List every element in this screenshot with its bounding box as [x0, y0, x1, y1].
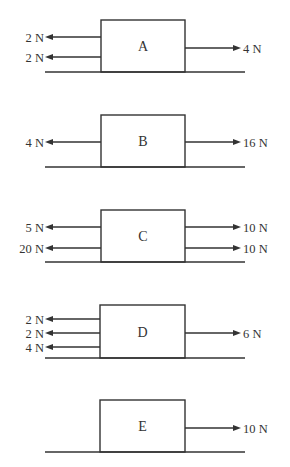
force-label: 2 N [26, 31, 44, 45]
arrowhead-right-icon [233, 425, 241, 431]
force-label: 2 N [26, 327, 44, 341]
force-label: 2 N [26, 51, 44, 65]
force-arrow-right: 10 N [185, 242, 268, 256]
force-label: 10 N [243, 221, 268, 235]
arrowhead-left-icon [45, 316, 53, 322]
force-label: 6 N [243, 327, 261, 341]
arrowhead-right-icon [233, 139, 241, 145]
arrowhead-left-icon [45, 224, 53, 230]
arrowhead-right-icon [233, 245, 241, 251]
force-diagrams: A2 N2 N4 NB4 N16 NC5 N20 N10 N10 ND2 N2 … [0, 0, 290, 467]
block-label: C [138, 229, 147, 244]
arrowhead-left-icon [45, 245, 53, 251]
force-label: 4 N [26, 341, 44, 355]
force-arrow-left: 4 N [26, 136, 101, 150]
diagram-c: C5 N20 N10 N10 N [19, 210, 267, 262]
arrowhead-right-icon [233, 224, 241, 230]
diagram-b: B4 N16 N [26, 115, 268, 167]
arrowhead-right-icon [233, 330, 241, 336]
force-label: 5 N [26, 221, 44, 235]
force-label: 4 N [243, 42, 261, 56]
force-arrow-left: 2 N [26, 313, 100, 327]
arrowhead-left-icon [45, 34, 53, 40]
force-label: 4 N [26, 136, 44, 150]
force-arrow-right: 4 N [185, 42, 261, 56]
force-arrow-right: 16 N [185, 136, 268, 150]
force-arrow-left: 4 N [26, 341, 100, 355]
force-arrow-left: 2 N [26, 31, 101, 45]
diagram-a: A2 N2 N4 N [26, 20, 262, 72]
force-label: 16 N [243, 136, 268, 150]
force-arrow-left: 2 N [26, 327, 100, 341]
force-label: 10 N [243, 422, 268, 436]
force-arrow-left: 2 N [26, 51, 101, 65]
arrowhead-left-icon [45, 344, 53, 350]
arrowhead-right-icon [233, 45, 241, 51]
force-arrow-left: 20 N [19, 242, 101, 256]
diagram-e: E10 N [45, 400, 268, 452]
diagram-d: D2 N2 N4 N6 N [26, 305, 262, 358]
force-arrow-right: 6 N [185, 327, 261, 341]
block-label: E [138, 419, 147, 434]
force-label: 2 N [26, 313, 44, 327]
arrowhead-left-icon [45, 54, 53, 60]
force-arrow-right: 10 N [185, 422, 268, 436]
block-label: D [137, 325, 147, 340]
force-arrow-right: 10 N [185, 221, 268, 235]
arrowhead-left-icon [45, 330, 53, 336]
block-label: A [138, 39, 149, 54]
arrowhead-left-icon [45, 139, 53, 145]
force-arrow-left: 5 N [26, 221, 101, 235]
block-label: B [138, 134, 147, 149]
force-label: 10 N [243, 242, 268, 256]
force-label: 20 N [19, 242, 44, 256]
